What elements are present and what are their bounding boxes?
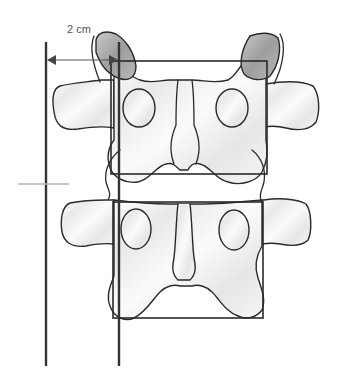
lower-right-transverse-process bbox=[262, 199, 311, 245]
lower-right-pedicle bbox=[219, 210, 249, 250]
upper-left-facet bbox=[96, 32, 136, 80]
lower-vertebra bbox=[61, 199, 311, 320]
vertebrae-diagram: 2 cm bbox=[0, 0, 339, 384]
lower-left-pedicle bbox=[121, 209, 151, 249]
upper-right-pedicle bbox=[216, 89, 248, 127]
upper-left-transverse-process bbox=[53, 80, 114, 129]
upper-vertebra bbox=[53, 32, 319, 202]
arrowhead-left-icon bbox=[47, 55, 56, 65]
lower-left-transverse-process bbox=[61, 200, 114, 246]
upper-right-facet bbox=[241, 33, 279, 79]
upper-right-transverse-process bbox=[264, 82, 319, 130]
upper-left-pedicle bbox=[123, 89, 155, 127]
measurement-label: 2 cm bbox=[67, 23, 91, 35]
